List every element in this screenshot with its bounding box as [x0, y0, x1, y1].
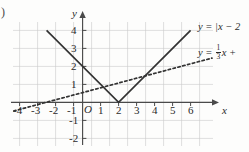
x-tick-1: 1: [98, 105, 104, 116]
y-tick-neg2: -2: [69, 133, 78, 144]
y-tick-2: 2: [71, 61, 77, 72]
x-tick-neg3: -3: [31, 105, 40, 116]
y-axis-name: y: [72, 8, 77, 19]
y-tick-4: 4: [71, 25, 77, 36]
linear-eq-suffix: x +: [222, 47, 236, 58]
y-tick-3: 3: [71, 43, 77, 54]
x-axis-name: x: [222, 105, 227, 116]
graph-figure: ) y x O -4 -3 -2 -1 1 2 3 4 5 6 4 3 2 1 …: [0, 0, 249, 152]
one-third-fraction: 13: [216, 44, 222, 61]
x-tick-3: 3: [134, 105, 140, 116]
y-tick-neg1: -1: [69, 115, 78, 126]
y-tick-1: 1: [71, 79, 77, 90]
linear-eq-prefix: y =: [198, 47, 215, 58]
x-tick-5: 5: [170, 105, 176, 116]
y-axis: [79, 11, 85, 145]
x-tick-2: 2: [116, 105, 122, 116]
equation-label-absolute-value: y = |x − 2: [198, 22, 240, 33]
x-tick-6: 6: [188, 105, 194, 116]
x-tick-neg4: -4: [13, 105, 22, 116]
origin-label: O: [84, 104, 92, 115]
problem-tag: ): [1, 6, 5, 18]
x-tick-neg2: -2: [49, 105, 58, 116]
x-tick-4: 4: [152, 105, 158, 116]
fraction-denominator: 3: [216, 53, 222, 61]
equation-label-linear: y = 13x +: [198, 44, 236, 61]
